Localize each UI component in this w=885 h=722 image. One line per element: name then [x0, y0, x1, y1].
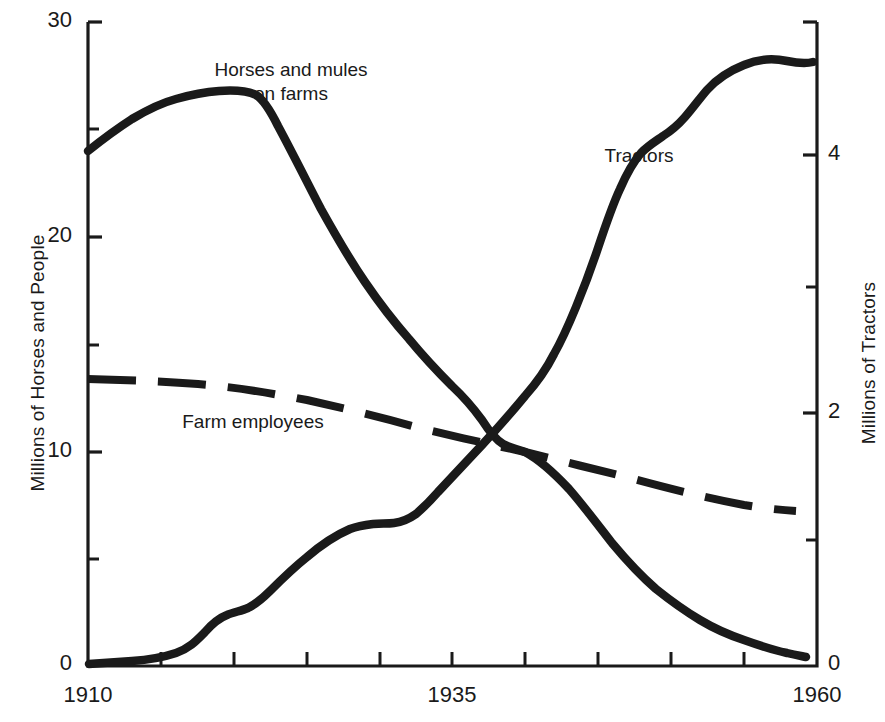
y-axis-right-tick-2: 2 [828, 398, 885, 424]
y-axis-right-title: Millions of Tractors [858, 213, 880, 513]
y-axis-right-tick-4: 4 [828, 140, 885, 166]
y-axis-left-tick-0: 0 [12, 650, 72, 676]
right-axis-major-ticks [803, 22, 817, 413]
chart-figure: Millions of Horses and People Millions o… [0, 0, 885, 722]
y-axis-right-tick-0: 0 [828, 650, 885, 676]
series-line-horses-and-mules [88, 91, 806, 657]
chart-plot-area [0, 0, 885, 722]
x-axis-tick-1960: 1960 [772, 682, 862, 708]
y-axis-left-tick-30: 30 [12, 7, 72, 33]
x-axis-tick-1910: 1910 [43, 682, 133, 708]
x-axis-tick-1935: 1935 [407, 682, 497, 708]
bottom-axis-ticks [161, 652, 744, 666]
series-label-horses-and-mules: Horses and mules on farms [209, 58, 373, 106]
axis-spines [88, 22, 817, 666]
y-axis-left-tick-10: 10 [12, 437, 72, 463]
y-axis-left-tick-20: 20 [12, 222, 72, 248]
series-label-farm-employees: Farm employees [173, 410, 333, 434]
y-axis-left-title: Millions of Horses and People [27, 213, 49, 513]
left-axis-minor-ticks [88, 129, 99, 559]
left-axis-major-ticks [88, 22, 102, 452]
series-label-tractors: Tractors [594, 144, 684, 168]
series-line-tractors [89, 59, 813, 664]
